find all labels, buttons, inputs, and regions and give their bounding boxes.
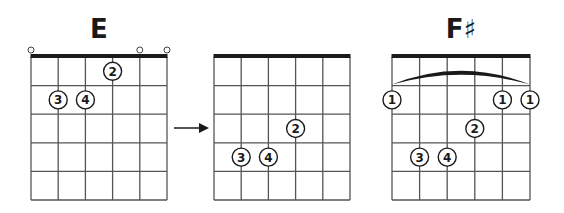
- finger-marker: 1: [383, 91, 401, 109]
- open-string-icon: [164, 47, 170, 53]
- open-string-icon: [137, 47, 143, 53]
- finger-marker: 3: [411, 148, 429, 166]
- nut: [392, 54, 531, 58]
- finger-number: 4: [443, 151, 451, 165]
- chord-diagram-E: E234: [28, 14, 170, 200]
- finger-marker: 4: [438, 148, 456, 166]
- finger-number: 3: [54, 93, 62, 107]
- finger-marker: 2: [466, 120, 484, 138]
- finger-marker: 3: [232, 148, 250, 166]
- finger-number: 1: [498, 93, 506, 107]
- finger-marker: 4: [76, 91, 94, 109]
- open-string-icon: [28, 47, 34, 53]
- finger-marker: 2: [287, 120, 305, 138]
- finger-marker: 1: [521, 91, 539, 109]
- finger-number: 4: [264, 151, 272, 165]
- finger-marker: 3: [49, 91, 67, 109]
- barre-arc-icon: [392, 71, 530, 85]
- arrow-head: [199, 123, 209, 133]
- finger-marker: 1: [493, 91, 511, 109]
- finger-number: 3: [237, 151, 245, 165]
- finger-marker: 4: [259, 148, 277, 166]
- finger-number: 3: [415, 151, 423, 165]
- nut: [214, 54, 351, 58]
- finger-number: 4: [81, 93, 89, 107]
- finger-number: 2: [108, 65, 116, 79]
- chord-title: F♯: [446, 14, 476, 44]
- nut: [31, 54, 168, 58]
- finger-number: 1: [526, 93, 534, 107]
- arrow-right-icon: [174, 123, 209, 133]
- finger-number: 2: [291, 122, 299, 136]
- finger-marker: 2: [104, 62, 122, 80]
- chord-diagram-Fsharp: F♯111234: [383, 14, 539, 200]
- chord-diagram-canvas: E234234F♯111234: [0, 0, 564, 213]
- finger-number: 2: [471, 122, 479, 136]
- chord-diagram-E-shape-moved: 234: [214, 54, 351, 200]
- chord-title: E: [90, 14, 108, 44]
- finger-number: 1: [388, 93, 396, 107]
